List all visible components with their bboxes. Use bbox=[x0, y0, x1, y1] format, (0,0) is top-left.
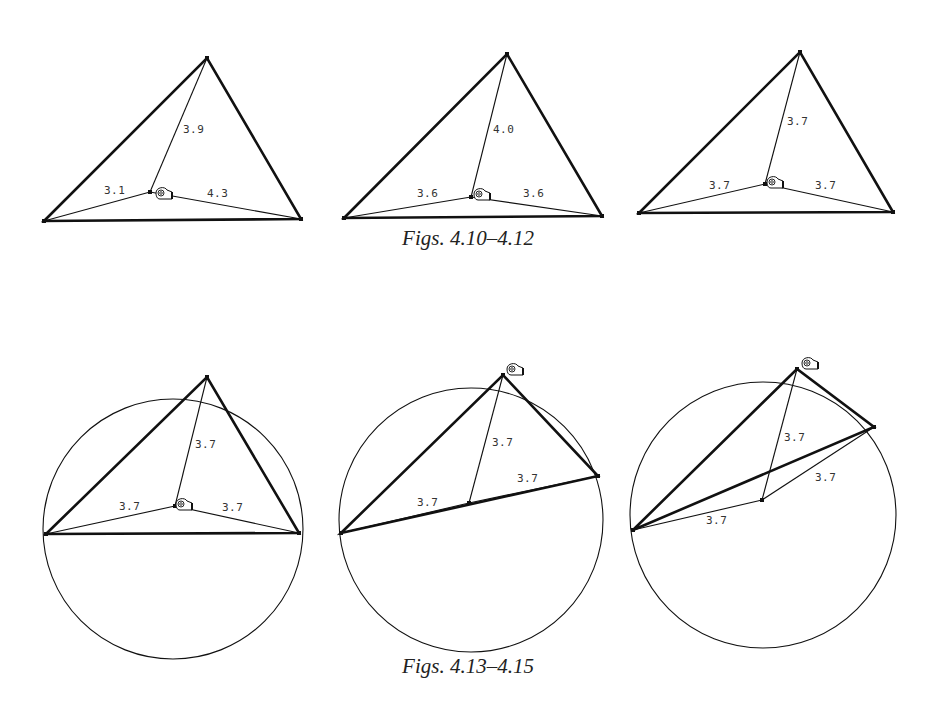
figure-4.10: 3.93.14.3 bbox=[42, 56, 303, 223]
center-point[interactable] bbox=[763, 182, 767, 186]
distance-label: 3.7 bbox=[787, 115, 808, 128]
hand-cursor-icon bbox=[474, 189, 490, 200]
geometry-figures: 3.93.14.34.03.63.63.73.73.73.73.73.73.73… bbox=[0, 0, 936, 703]
circumcircle bbox=[43, 399, 303, 659]
triangle bbox=[46, 377, 299, 534]
hand-cursor-icon bbox=[176, 499, 192, 510]
hand-cursor-icon bbox=[156, 188, 172, 199]
figure-4.14: 3.73.73.7 bbox=[339, 364, 603, 652]
hand-cursor-icon bbox=[802, 358, 818, 369]
distance-label: 4.3 bbox=[207, 187, 228, 200]
caption-top: Figs. 4.10–4.12 bbox=[402, 226, 534, 251]
vertex-point[interactable] bbox=[205, 56, 209, 60]
vertex-point[interactable] bbox=[342, 216, 346, 220]
triangle bbox=[639, 52, 893, 213]
center-point[interactable] bbox=[760, 498, 764, 502]
vertex-point[interactable] bbox=[299, 217, 303, 221]
vertex-point[interactable] bbox=[637, 211, 641, 215]
figure-4.13: 3.73.73.7 bbox=[43, 375, 303, 659]
distance-segment bbox=[639, 184, 765, 213]
vertex-point[interactable] bbox=[795, 367, 799, 371]
distance-label: 3.7 bbox=[417, 496, 438, 509]
vertex-point[interactable] bbox=[44, 532, 48, 536]
distance-segment bbox=[341, 503, 469, 533]
distance-label: 3.6 bbox=[523, 187, 544, 200]
vertex-point[interactable] bbox=[596, 474, 600, 478]
distance-label: 3.7 bbox=[222, 501, 243, 514]
distance-label: 3.1 bbox=[104, 184, 125, 197]
distance-label: 4.0 bbox=[493, 123, 514, 136]
distance-label: 3.7 bbox=[119, 500, 140, 513]
vertex-point[interactable] bbox=[339, 531, 343, 535]
hand-cursor-icon bbox=[767, 177, 783, 188]
center-point[interactable] bbox=[148, 190, 152, 194]
distance-label: 3.7 bbox=[709, 179, 730, 192]
distance-label: 3.6 bbox=[417, 187, 438, 200]
vertex-point[interactable] bbox=[872, 425, 876, 429]
vertex-point[interactable] bbox=[600, 214, 604, 218]
distance-label: 3.7 bbox=[815, 471, 836, 484]
triangle bbox=[633, 369, 874, 530]
distance-segment bbox=[633, 500, 762, 530]
distance-label: 3.9 bbox=[183, 123, 204, 136]
vertex-point[interactable] bbox=[631, 528, 635, 532]
vertex-point[interactable] bbox=[891, 210, 895, 214]
distance-label: 3.7 bbox=[517, 472, 538, 485]
distance-label: 3.7 bbox=[784, 431, 805, 444]
distance-label: 3.7 bbox=[706, 514, 727, 527]
vertex-point[interactable] bbox=[798, 50, 802, 54]
circumcircle bbox=[339, 388, 603, 652]
figure-4.11: 4.03.63.6 bbox=[342, 52, 604, 220]
vertex-point[interactable] bbox=[42, 219, 46, 223]
center-point[interactable] bbox=[467, 501, 471, 505]
distance-label: 3.7 bbox=[815, 179, 836, 192]
distance-segment bbox=[46, 506, 175, 534]
caption-bottom: Figs. 4.13–4.15 bbox=[402, 654, 534, 679]
hand-cursor-icon bbox=[507, 364, 523, 375]
center-point[interactable] bbox=[469, 195, 473, 199]
figure-4.12: 3.73.73.7 bbox=[637, 50, 895, 215]
distance-label: 3.7 bbox=[492, 436, 513, 449]
vertex-point[interactable] bbox=[205, 375, 209, 379]
figure-4.15: 3.73.73.7 bbox=[630, 358, 896, 648]
vertex-point[interactable] bbox=[297, 531, 301, 535]
triangle bbox=[341, 375, 598, 533]
vertex-point[interactable] bbox=[505, 52, 509, 56]
triangle bbox=[344, 54, 602, 218]
vertex-point[interactable] bbox=[501, 373, 505, 377]
distance-label: 3.7 bbox=[195, 438, 216, 451]
